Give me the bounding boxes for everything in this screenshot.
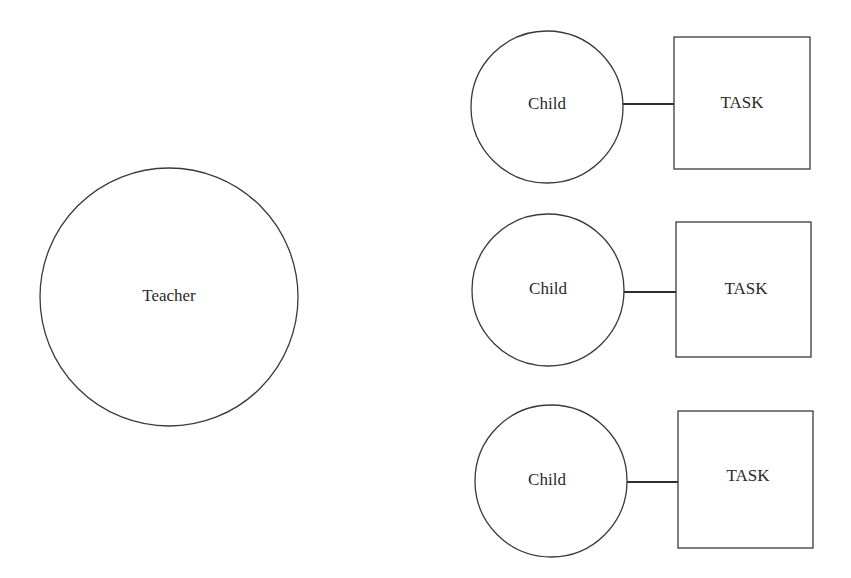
task-label: TASK	[726, 466, 770, 485]
child-label: Child	[529, 279, 567, 298]
diagram-canvas: Teacher Child TASK Child TASK Child TASK	[0, 0, 851, 578]
child-task-pair-1: Child TASK	[471, 31, 810, 183]
task-label: TASK	[720, 93, 764, 112]
task-label: TASK	[724, 279, 768, 298]
child-label: Child	[528, 470, 566, 489]
teacher-label: Teacher	[142, 286, 196, 305]
teacher-node: Teacher	[40, 168, 298, 426]
child-task-pair-3: Child TASK	[475, 405, 813, 557]
child-label: Child	[528, 94, 566, 113]
child-task-pair-2: Child TASK	[472, 214, 811, 366]
